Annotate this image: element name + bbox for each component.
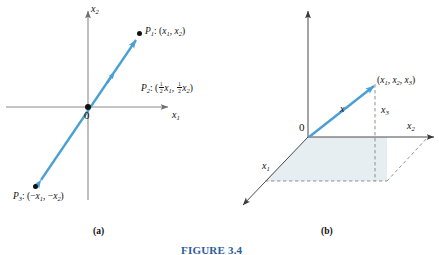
- panel-a-point-p1-label: P1: (x1, x2): [145, 27, 185, 37]
- panel-b-x1-axis-label: x1: [262, 161, 270, 173]
- figure-3-4: x1 x2 0 P1: (x1, x2) P2: (12x1, 12x2) P3…: [0, 0, 439, 255]
- panel-b-point-label: (x1, x2, x3): [377, 76, 415, 86]
- panel-a-midpoint-p2-label: P2: (12x1, 12x2): [141, 81, 193, 94]
- panel-a-origin-label: 0: [84, 110, 90, 121]
- panel-b-graphics: [243, 11, 434, 205]
- panel-b-origin-label: 0: [299, 122, 305, 133]
- panel-b-vector-label: x: [340, 104, 344, 114]
- panel-a-point-p1-dot: [137, 31, 142, 36]
- panel-a-point-p3-label: P3: (−x1, −x2): [13, 192, 64, 202]
- panel-b-plane-edge-right: [387, 137, 428, 181]
- panel-a-x2-axis-label: x2: [91, 4, 99, 16]
- panel-b-coordinate-plane: [265, 137, 387, 181]
- panel-b-sublabel: (b): [321, 226, 333, 236]
- panel-a-x1-axis-label: x1: [172, 110, 180, 122]
- panel-a-sublabel: (a): [93, 226, 104, 236]
- panel-b-x3-axis-label: x3: [381, 105, 389, 117]
- panel-a-midpoint-arrow: [107, 74, 113, 83]
- figure-caption: FIGURE 3.4: [181, 244, 242, 255]
- panel-a-point-p3-dot: [33, 184, 38, 189]
- panel-a-graphics: [6, 11, 168, 200]
- figure-graphics: [0, 0, 439, 255]
- panel-b-x2-axis-label: x2: [407, 121, 415, 133]
